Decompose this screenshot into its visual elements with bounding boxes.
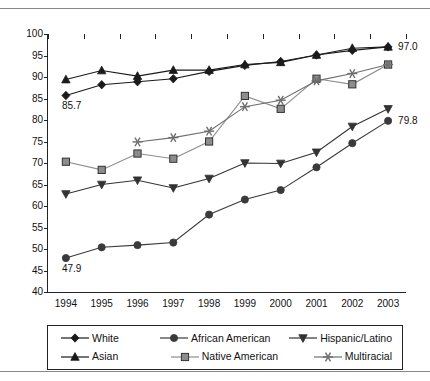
circle-marker-icon [62, 254, 69, 261]
y-axis-tick-label: 85 [17, 94, 43, 104]
legend-label: White [90, 333, 119, 344]
diamond-marker-icon [60, 331, 90, 345]
circle-marker-icon [385, 117, 392, 124]
square-marker-icon [62, 158, 69, 165]
x-axis-tick-label: 1994 [55, 299, 77, 309]
triangle-down-marker-icon [277, 160, 285, 168]
series-line-white [66, 47, 388, 96]
series-line-african-american [66, 121, 388, 258]
circle-marker-icon [98, 244, 105, 251]
square-marker-icon [181, 353, 188, 360]
y-axis-tick-label: 40 [17, 287, 43, 297]
legend-item-white[interactable]: White [60, 331, 159, 345]
diamond-marker-icon [71, 334, 79, 342]
y-axis-tick-label: 60 [17, 201, 43, 211]
asterisk-marker-icon [276, 96, 286, 105]
x-axis-tick-label: 1997 [162, 299, 184, 309]
legend-label: Hispanic/Latino [318, 333, 392, 344]
x-axis-tick-label: 2000 [270, 299, 292, 309]
circle-marker-icon [313, 164, 320, 171]
triangle-down-marker-icon [169, 185, 177, 193]
y-axis-tick-mark [44, 292, 48, 293]
asterisk-marker-icon [133, 138, 143, 147]
circle-marker-icon [159, 331, 189, 345]
x-axis-tick-label: 2001 [305, 299, 327, 309]
x-axis-tick-label: 1995 [91, 299, 113, 309]
y-axis-tick-label: 100 [17, 29, 43, 39]
square-marker-icon [134, 150, 141, 157]
x-axis-tick-label: 2003 [377, 299, 399, 309]
diamond-marker-icon [98, 81, 106, 89]
circle-marker-icon [134, 242, 141, 249]
series-layer [48, 34, 406, 292]
legend-label: Asian [90, 351, 118, 362]
y-axis-tick-label: 65 [17, 180, 43, 190]
legend-label: Multiracial [343, 351, 392, 362]
triangle-down-marker-icon [288, 331, 318, 345]
circle-marker-icon [277, 186, 284, 193]
circle-marker-icon [349, 140, 356, 147]
square-marker-icon [241, 92, 248, 99]
triangle-down-marker-icon [384, 106, 392, 114]
circle-marker-icon [170, 335, 177, 342]
x-axis-tick-mark [406, 34, 407, 39]
bottom-divider-rule [0, 371, 430, 372]
square-marker-icon [98, 166, 105, 173]
y-axis-tick-label: 80 [17, 115, 43, 125]
triangle-up-marker-icon [98, 66, 106, 74]
asterisk-marker-icon [168, 133, 178, 142]
triangle-down-marker-icon [62, 191, 70, 199]
x-axis-tick-label: 2002 [341, 299, 363, 309]
y-axis-tick-label: 55 [17, 223, 43, 233]
y-axis-tick-label: 90 [17, 72, 43, 82]
triangle-down-marker-icon [348, 123, 356, 131]
legend-label: Native American [200, 351, 278, 362]
chart-figure: 4045505560657075808590951001994199519961… [0, 12, 430, 370]
triangle-up-marker-icon [60, 350, 90, 364]
legend-item-multiracial[interactable]: Multiracial [313, 350, 392, 364]
legend-item-hispanic-latino[interactable]: Hispanic/Latino [288, 331, 392, 345]
legend-item-native-american[interactable]: Native American [170, 350, 313, 364]
diamond-marker-icon [169, 75, 177, 83]
legend-item-african-american[interactable]: African American [159, 331, 288, 345]
x-axis-tick-label: 1996 [126, 299, 148, 309]
circle-marker-icon [170, 239, 177, 246]
circle-marker-icon [241, 196, 248, 203]
x-axis-tick-label: 1999 [234, 299, 256, 309]
y-axis-tick-label: 75 [17, 137, 43, 147]
series-line-native-american [66, 65, 388, 170]
legend-row: White African American Hispanic/Latino [60, 329, 392, 348]
x-axis-tick-label: 1998 [198, 299, 220, 309]
diamond-marker-icon [62, 91, 70, 99]
square-marker-icon [206, 138, 213, 145]
square-marker-icon [170, 155, 177, 162]
asterisk-marker-icon [313, 350, 343, 364]
y-axis-tick-label: 70 [17, 158, 43, 168]
legend-row: Asian Native American Multiracial [60, 348, 392, 367]
plot-area-wrapper: 4045505560657075808590951001994199519961… [0, 12, 430, 312]
y-axis-tick-label: 50 [17, 244, 43, 254]
chart-axes: 4045505560657075808590951001994199519961… [47, 34, 406, 293]
circle-marker-icon [206, 211, 213, 218]
chart-legend: White African American Hispanic/Latino A… [47, 325, 403, 370]
legend-label: African American [189, 333, 270, 344]
legend-item-asian[interactable]: Asian [60, 350, 170, 364]
top-divider-rule [0, 8, 430, 9]
y-axis-tick-label: 95 [17, 51, 43, 61]
square-marker-icon [277, 105, 284, 112]
square-marker-icon [349, 81, 356, 88]
asterisk-marker-icon [323, 352, 333, 361]
asterisk-marker-icon [347, 69, 357, 78]
y-axis-tick-label: 45 [17, 266, 43, 276]
square-marker-icon [170, 350, 200, 364]
